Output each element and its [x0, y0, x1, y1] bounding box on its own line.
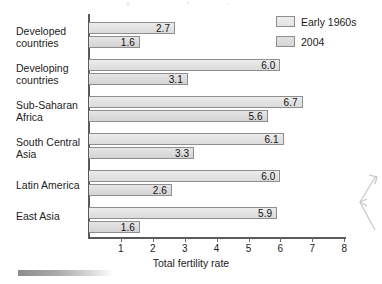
chart-legend: Early 1960s 2004	[276, 13, 380, 53]
x-axis-tick-mark	[312, 238, 313, 242]
bar-value: 3.1	[169, 74, 187, 85]
x-axis-tick-label: 8	[336, 243, 352, 254]
bar-developed-countries-early-1960s: 2.7	[89, 22, 175, 34]
bar-value: 2.7	[156, 23, 174, 34]
category-label-south-central-asia: South Central Asia	[16, 137, 88, 161]
category-label-developing-countries: Developing countries	[16, 63, 88, 87]
bar-value: 6.1	[264, 134, 282, 145]
x-axis-tick-mark	[121, 238, 122, 242]
bar-value: 6.0	[261, 171, 279, 182]
fertility-rate-bar-chart: Developed countries Developing countries…	[0, 0, 382, 284]
bar-developed-countries-2004: 1.6	[89, 36, 140, 48]
bar-developing-countries-2004: 3.1	[89, 73, 188, 85]
page-footer-gradient-bar	[18, 270, 114, 276]
category-label-east-asia: East Asia	[16, 211, 88, 223]
x-axis-tick-label: 3	[177, 243, 193, 254]
legend-item-2004: 2004	[276, 33, 380, 50]
bar-value: 1.6	[121, 37, 139, 48]
x-axis-tick-label: 2	[145, 243, 161, 254]
x-axis-tick-label: 5	[241, 243, 257, 254]
bar-east-asia-2004: 1.6	[89, 221, 140, 233]
bar-value: 3.3	[175, 148, 193, 159]
x-axis-tick-mark	[153, 238, 154, 242]
legend-label: 2004	[301, 36, 324, 48]
x-axis-tick-mark	[249, 238, 250, 242]
bar-sub-saharan-africa-2004: 5.6	[89, 110, 268, 122]
bar-sub-saharan-africa-early-1960s: 6.7	[89, 96, 303, 108]
bar-east-asia-early-1960s: 5.9	[89, 207, 277, 219]
legend-label: Early 1960s	[301, 16, 356, 28]
bar-value: 5.9	[258, 208, 276, 219]
legend-swatch-icon-early-1960s	[276, 16, 295, 27]
x-axis-tick-label: 4	[209, 243, 225, 254]
bar-latin-america-early-1960s: 6.0	[89, 170, 280, 182]
legend-swatch-icon-2004	[276, 36, 295, 47]
x-axis-tick-mark	[185, 238, 186, 242]
bar-developing-countries-early-1960s: 6.0	[89, 59, 280, 71]
legend-item-early-1960s: Early 1960s	[276, 13, 380, 30]
category-label-sub-saharan-africa: Sub-Saharan Africa	[16, 100, 88, 124]
category-label-developed-countries: Developed countries	[16, 26, 88, 50]
bar-latin-america-2004: 2.6	[89, 184, 172, 196]
bar-value: 6.0	[261, 60, 279, 71]
bar-south-central-asia-early-1960s: 6.1	[89, 133, 284, 145]
x-axis-tick-mark	[217, 238, 218, 242]
bar-value: 6.7	[284, 97, 302, 108]
bar-value: 2.6	[153, 185, 171, 196]
x-axis-tick-mark	[280, 238, 281, 242]
bar-south-central-asia-2004: 3.3	[89, 147, 194, 159]
category-label-latin-america: Latin America	[16, 180, 88, 192]
x-axis-title: Total fertility rate	[0, 257, 382, 269]
bar-value: 5.6	[248, 111, 266, 122]
x-axis-tick-mark	[344, 238, 345, 242]
x-axis-tick-label: 6	[272, 243, 288, 254]
margin-annotation-arrow-icon	[354, 172, 380, 238]
x-axis-tick-label: 1	[113, 243, 129, 254]
bar-value: 1.6	[121, 222, 139, 233]
x-axis-tick-label: 7	[304, 243, 320, 254]
